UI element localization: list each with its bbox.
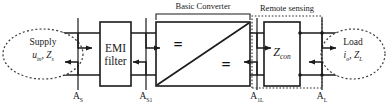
load-z-sub: L (359, 56, 362, 62)
load-label: Load (329, 38, 377, 48)
basic-converter-bracket (156, 14, 250, 20)
converter-dc-symbol-output: = (216, 57, 236, 74)
as1-sub: S1 (146, 97, 152, 103)
supply-params: uin, Zs (14, 51, 72, 62)
arrow-al-bottom (309, 62, 322, 75)
supply-z-sub: s (52, 56, 54, 62)
sense-junction-dots (298, 31, 324, 77)
measurement-label-as: AS (63, 92, 93, 103)
zcon-main: Z (273, 45, 280, 59)
zcon-label: Zcon (264, 46, 300, 61)
measurement-label-a1l: A1L (242, 92, 272, 103)
basic-converter-annotation: Basic Converter (153, 2, 253, 11)
emi-filter-label-line1: EMI (100, 42, 131, 54)
remote-sensing-annotation: Remote sensing (248, 4, 326, 13)
arrow-as1-bottom (133, 62, 146, 75)
al-main: A (317, 91, 324, 101)
block-diagram: Supply uin, Zs EMI filter = = Zcon Load … (0, 0, 387, 111)
load-params: io, ZL (329, 51, 377, 62)
converter-dc-symbol-input: = (168, 37, 188, 54)
a1l-sub: 1L (257, 97, 264, 103)
as-sub: S (80, 97, 83, 103)
measurement-label-al: AL (307, 92, 337, 103)
supply-label: Supply (14, 38, 72, 48)
emi-filter-label-line2: filter (100, 55, 131, 67)
as-main: A (73, 91, 80, 101)
zcon-sub: con (280, 52, 291, 61)
measurement-label-as1: AS1 (131, 92, 161, 103)
al-sub: L (324, 97, 328, 103)
